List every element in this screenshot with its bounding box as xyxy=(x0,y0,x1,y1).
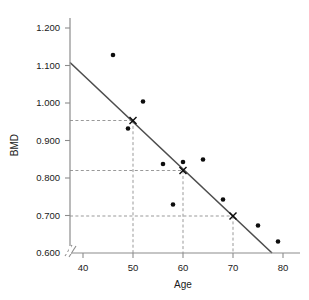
x-tick-label: 80 xyxy=(268,263,298,273)
data-point xyxy=(201,157,206,162)
y-axis-title-wrapper: BMD xyxy=(8,118,22,178)
y-tick-label: 1.100 xyxy=(18,61,60,71)
x-axis-title: Age xyxy=(168,280,198,290)
x-tick-label: 60 xyxy=(168,263,198,273)
y-tick-label: 0.900 xyxy=(18,136,60,146)
data-point xyxy=(221,197,226,202)
data-point xyxy=(276,239,281,244)
y-tick-label: 1.000 xyxy=(18,98,60,108)
data-point xyxy=(126,126,131,131)
y-tick-label: 0.600 xyxy=(18,248,60,258)
data-point xyxy=(141,99,146,104)
data-point xyxy=(161,162,166,167)
y-tick-label: 1.200 xyxy=(18,23,60,33)
data-point xyxy=(171,202,176,207)
data-point xyxy=(111,53,116,58)
x-tick-label: 40 xyxy=(68,263,98,273)
y-tick-label: 0.700 xyxy=(18,211,60,221)
data-point xyxy=(256,223,261,228)
x-tick-label: 70 xyxy=(218,263,248,273)
chart-figure: 1.200 1.100 1.000 0.900 0.800 0.700 0.60… xyxy=(0,0,309,300)
y-tick-label: 0.800 xyxy=(18,173,60,183)
data-point xyxy=(181,160,186,165)
x-tick-label: 50 xyxy=(118,263,148,273)
y-axis-title: BMD xyxy=(10,122,20,168)
